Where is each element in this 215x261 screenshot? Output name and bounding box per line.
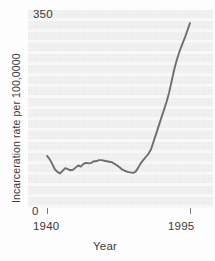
y-axis-max-label: 350 — [33, 8, 53, 20]
y-axis-title: Incarceration rate per 100,0000 — [10, 53, 22, 203]
data-line-svg — [28, 10, 213, 208]
incarceration-rate-line-chart: 350 0 Incarceration rate per 100,0000 19… — [0, 0, 215, 261]
x-axis-label-start: 1940 — [33, 220, 59, 232]
plot-area — [28, 10, 213, 208]
y-axis-title-wrap: Incarceration rate per 100,0000 — [6, 28, 26, 203]
x-axis-tick-1995 — [190, 208, 191, 214]
x-axis-label-end: 1995 — [168, 220, 194, 232]
y-axis-zero-label: 0 — [32, 205, 39, 217]
x-axis-tick-1940 — [47, 208, 48, 214]
series-line-incarceration-rate — [47, 23, 190, 173]
x-axis-title: Year — [93, 240, 117, 252]
